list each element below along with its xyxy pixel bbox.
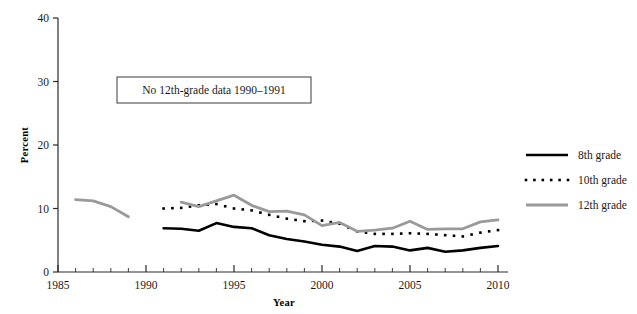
series-dot: [268, 214, 271, 217]
series-dot: [382, 233, 385, 236]
y-tick-label: 40: [38, 12, 50, 24]
series-dot: [426, 233, 429, 236]
series-dot: [391, 233, 394, 236]
series-dot: [259, 211, 262, 214]
series-dot: [215, 203, 218, 206]
legend-swatch-dot: [533, 179, 536, 182]
legend-swatch-dot: [525, 179, 528, 182]
series-dot: [162, 207, 165, 210]
series-dot: [171, 207, 174, 210]
series-dot: [294, 219, 297, 222]
legend-swatch-dot: [542, 179, 545, 182]
annotation-label: No 12th-grade data 1990–1991: [142, 84, 286, 97]
series-dot: [418, 232, 421, 235]
x-tick-label: 2010: [487, 279, 510, 291]
legend-swatch-dot: [558, 179, 561, 182]
y-tick-label: 0: [43, 266, 49, 278]
x-tick-label: 1990: [135, 279, 158, 291]
y-tick-label: 20: [38, 139, 50, 151]
x-tick-label: 2005: [399, 279, 422, 291]
series-dot: [321, 219, 324, 222]
series-dot: [400, 232, 403, 235]
chart-container: 010203040 198519901995200020052010 No 12…: [0, 0, 637, 314]
legend-label: 8th grade: [578, 149, 621, 162]
series-dot: [277, 215, 280, 218]
plot-background: [0, 0, 637, 314]
missing-data-note: No 12th-grade data 1990–1991: [117, 77, 311, 103]
series-dot: [224, 205, 227, 208]
series-dot: [303, 220, 306, 223]
x-axis-title: Year: [273, 297, 295, 308]
series-dot: [453, 235, 456, 238]
y-axis-title: Percent: [19, 127, 30, 164]
x-tick-label: 1995: [223, 279, 246, 291]
series-dot: [444, 234, 447, 237]
series-dot: [242, 208, 245, 211]
y-tick-label: 10: [38, 203, 50, 215]
legend-swatch-dot: [550, 179, 553, 182]
series-dot: [180, 207, 183, 210]
x-tick-label: 1985: [47, 279, 70, 291]
y-tick-label: 30: [38, 76, 50, 88]
series-dot: [250, 209, 253, 212]
legend-label: 12th grade: [578, 199, 627, 212]
series-dot: [462, 235, 465, 238]
line-chart: 010203040 198519901995200020052010 No 12…: [0, 0, 637, 314]
series-dot: [488, 230, 491, 233]
series-dot: [374, 233, 377, 236]
series-dot: [233, 207, 236, 210]
x-tick-label: 2000: [311, 279, 334, 291]
series-dot: [286, 217, 289, 220]
series-dot: [435, 233, 438, 236]
legend-swatch-dot: [567, 179, 570, 182]
series-dot: [479, 231, 482, 234]
series-dot: [497, 229, 500, 232]
legend-label: 10th grade: [578, 174, 627, 187]
series-dot: [409, 232, 412, 235]
series-dot: [470, 233, 473, 236]
